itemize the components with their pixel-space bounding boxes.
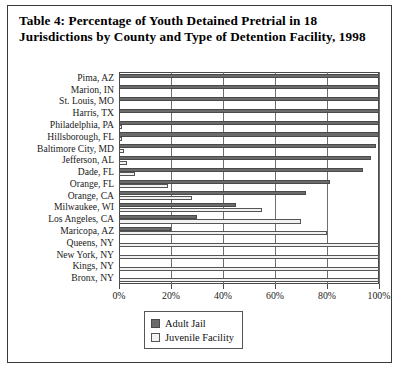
bar-adult-jail [119, 109, 379, 113]
gridline-100 [379, 72, 380, 284]
x-axis-ticks: 0%20%40%60%80%100% [119, 284, 379, 290]
bar-row: Orange, CA [119, 190, 379, 202]
bar-row: Orange, FL [119, 178, 379, 190]
bar-row: Dade, FL [119, 166, 379, 178]
y-axis-label: Orange, CA [68, 191, 114, 201]
bar-row: Harris, TX [119, 107, 379, 119]
y-axis-label: Maricopa, AZ [60, 226, 114, 236]
bar-adult-jail [119, 132, 379, 136]
y-axis-label: Kings, NY [72, 261, 114, 271]
bar-juvenile-facility [119, 231, 327, 235]
bar-juvenile-facility [119, 172, 135, 176]
x-axis-label: 100% [368, 290, 391, 301]
bar-adult-jail [119, 191, 306, 195]
bar-juvenile-facility [119, 278, 379, 282]
legend-label-adult-jail: Adult Jail [165, 318, 206, 329]
bar-row: Maricopa, AZ [119, 225, 379, 237]
y-axis-label: Orange, FL [70, 179, 114, 189]
x-axis-label: 60% [266, 290, 284, 301]
y-axis-label: Milwaukee, WI [54, 202, 114, 212]
x-axis-label: 20% [162, 290, 180, 301]
y-axis-label: Baltimore City, MD [37, 144, 114, 154]
x-tick [223, 284, 224, 289]
bar-juvenile-facility [119, 267, 379, 271]
bar-row: New York, NY [119, 249, 379, 261]
bar-adult-jail [119, 168, 363, 172]
figure-panel: Table 4: Percentage of Youth Detained Pr… [7, 5, 392, 363]
bar-row: Queens, NY [119, 237, 379, 249]
dark-gray-swatch-icon [151, 319, 160, 328]
bar-row: Bronx, NY [119, 272, 379, 284]
bar-juvenile-facility [119, 219, 301, 223]
bar-adult-jail [119, 144, 376, 148]
bar-row: St. Louis, MO [119, 96, 379, 108]
bar-juvenile-facility [119, 161, 127, 165]
bar-row: Jefferson, AL [119, 154, 379, 166]
bar-juvenile-facility [119, 255, 379, 259]
x-tick [275, 284, 276, 289]
bar-row: Marion, IN [119, 84, 379, 96]
bar-juvenile-facility [119, 184, 168, 188]
y-axis-label: Dade, FL [78, 167, 114, 177]
light-gray-swatch-icon [151, 333, 160, 342]
chart-legend: Adult Jail Juvenile Facility [144, 311, 243, 349]
x-tick [171, 284, 172, 289]
bar-adult-jail [119, 215, 197, 219]
bar-adult-jail [119, 85, 379, 89]
x-tick [379, 284, 380, 289]
y-axis-label: Queens, NY [67, 238, 114, 248]
y-axis-label: St. Louis, MO [59, 96, 114, 106]
x-tick [119, 284, 120, 289]
bar-juvenile-facility [119, 137, 122, 141]
bar-juvenile-facility [119, 125, 122, 129]
legend-item-juvenile-facility: Juvenile Facility [151, 330, 234, 344]
legend-item-adult-jail: Adult Jail [151, 316, 234, 330]
x-axis-label: 80% [318, 290, 336, 301]
bar-adult-jail [119, 97, 379, 101]
bar-juvenile-facility [119, 149, 124, 153]
y-axis-label: Marion, IN [71, 85, 114, 95]
y-axis-label: Los Angeles, CA [48, 214, 114, 224]
bar-row: Kings, NY [119, 260, 379, 272]
bar-row: Baltimore City, MD [119, 143, 379, 155]
bar-juvenile-facility [119, 196, 192, 200]
plot-area: Pima, AZMarion, INSt. Louis, MOHarris, T… [119, 72, 379, 284]
x-axis-label: 0% [112, 290, 125, 301]
bar-adult-jail [119, 74, 379, 78]
bar-adult-jail [119, 156, 371, 160]
y-axis-label: Harris, TX [73, 108, 114, 118]
bar-row: Los Angeles, CA [119, 213, 379, 225]
y-axis-label: Jefferson, AL [62, 155, 114, 165]
y-axis-label: Pima, AZ [77, 73, 114, 83]
bar-row: Milwaukee, WI [119, 202, 379, 214]
legend-label-juvenile-facility: Juvenile Facility [165, 332, 234, 343]
y-axis-label: New York, NY [56, 250, 114, 260]
bar-adult-jail [119, 227, 171, 231]
figure-title: Table 4: Percentage of Youth Detained Pr… [19, 13, 379, 46]
y-axis-label: Philadelphia, PA [50, 120, 114, 130]
bar-row: Hillsborough, FL [119, 131, 379, 143]
x-axis-label: 40% [214, 290, 232, 301]
bar-juvenile-facility [119, 208, 262, 212]
bar-adult-jail [119, 180, 330, 184]
y-axis-label: Hillsborough, FL [47, 132, 114, 142]
x-tick [327, 284, 328, 289]
bar-row: Pima, AZ [119, 72, 379, 84]
bar-adult-jail [119, 121, 379, 125]
bar-adult-jail [119, 203, 236, 207]
y-axis-label: Bronx, NY [71, 273, 114, 283]
bar-juvenile-facility [119, 243, 379, 247]
bar-row: Philadelphia, PA [119, 119, 379, 131]
